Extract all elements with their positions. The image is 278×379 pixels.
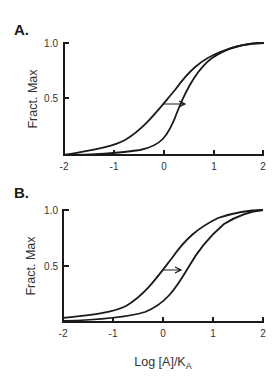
panel-a: A. Fract. Max 1.0 0.5 -2 -1 0 1 2: [14, 21, 266, 172]
panel-b-axes: [63, 210, 264, 322]
panel-a-shift-arrow-icon: [163, 101, 185, 107]
panel-a-curve-right: [64, 43, 264, 155]
panel-b-y-tick-05: 0.5: [44, 261, 58, 272]
panel-b-label: B.: [14, 184, 29, 201]
panel-a-y-tick-05: 0.5: [44, 93, 58, 104]
panel-b-y-axis-label: Fract. Max: [24, 236, 38, 296]
panel-a-x-tick: 1: [211, 161, 217, 172]
panel-a-x-tick: -1: [110, 161, 119, 172]
panel-b-x-tick: 2: [260, 328, 266, 339]
panel-b-curve-right: [63, 210, 263, 321]
panel-b-shift-arrow-icon: [163, 267, 181, 273]
panel-a-y-axis-label: Fract. Max: [26, 69, 40, 129]
panel-a-y-tick-1: 1.0: [44, 38, 58, 49]
panel-b-x-tick: -1: [109, 328, 118, 339]
panel-b-x-tick: 0: [160, 328, 166, 339]
panel-a-x-tick: 0: [161, 161, 167, 172]
panel-b-x-tick: 1: [210, 328, 216, 339]
x-axis-label: Log [A]/KA: [134, 355, 191, 371]
panel-a-x-tick: 2: [260, 161, 266, 172]
figure: A. Fract. Max 1.0 0.5 -2 -1 0 1 2 B. Fra…: [0, 0, 278, 379]
panel-b-x-tick: -2: [59, 328, 68, 339]
panel-a-label: A.: [14, 21, 29, 38]
panel-a-x-tick: -2: [60, 161, 69, 172]
panel-b-y-tick-1: 1.0: [44, 205, 58, 216]
panel-b: B. Fract. Max 1.0 0.5 -2 -1 0 1 2 Log [A…: [14, 184, 266, 371]
